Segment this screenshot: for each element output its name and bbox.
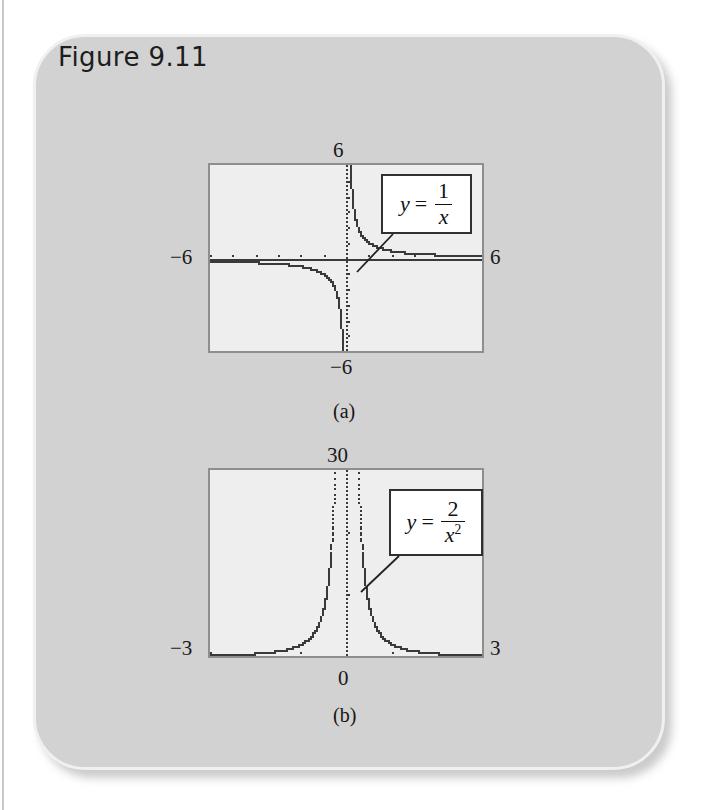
caption-a: (a) xyxy=(333,400,355,423)
equation-a-denominator: x xyxy=(435,204,453,228)
equation-b: y = 2 x2 xyxy=(407,498,466,547)
equation-b-lhs: y xyxy=(407,509,417,535)
callout-box-a: y = 1 x xyxy=(381,174,472,234)
equation-b-fraction: 2 x2 xyxy=(441,498,466,547)
callout-box-b: y = 2 x2 xyxy=(389,489,483,556)
axis-label-b-right: 3 xyxy=(490,636,501,661)
axis-label-a-left: −6 xyxy=(170,245,192,270)
equation-a-numerator: 1 xyxy=(434,180,453,203)
equation-a-fraction: 1 x xyxy=(434,180,453,228)
axis-label-a-right: 6 xyxy=(490,245,501,270)
axis-label-b-top: 30 xyxy=(327,443,348,468)
axis-label-a-bottom: −6 xyxy=(330,355,352,380)
equation-b-numerator: 2 xyxy=(444,498,463,521)
equation-b-equals: = xyxy=(421,509,433,535)
equation-b-exponent: 2 xyxy=(455,522,462,537)
axis-label-b-bottom: 0 xyxy=(338,666,349,691)
figure-title: Figure 9.11 xyxy=(58,42,208,72)
page-edge-rule xyxy=(2,0,4,810)
axis-label-b-left: −3 xyxy=(170,636,192,661)
caption-b: (b) xyxy=(333,704,356,727)
equation-a: y = 1 x xyxy=(400,180,453,228)
equation-a-equals: = xyxy=(415,191,427,217)
equation-a-lhs: y xyxy=(400,191,410,217)
axis-label-a-top: 6 xyxy=(333,138,344,163)
equation-b-denominator: x2 xyxy=(441,521,466,547)
